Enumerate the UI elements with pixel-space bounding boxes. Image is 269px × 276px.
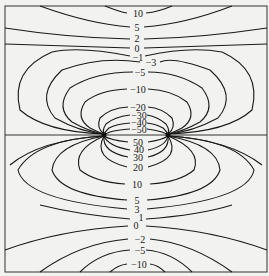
- label: 10: [132, 179, 142, 190]
- label: −1: [133, 52, 144, 63]
- label: −2: [135, 234, 146, 245]
- label: 20: [133, 162, 143, 173]
- label: −5: [135, 67, 146, 78]
- label: −10: [130, 84, 146, 95]
- left-pole: [102, 133, 107, 138]
- label: 1: [139, 212, 144, 223]
- label: −3: [146, 57, 157, 68]
- label: −50: [131, 124, 147, 135]
- right-pole: [166, 133, 171, 138]
- label: 0: [134, 220, 139, 231]
- label: 10: [133, 8, 143, 19]
- label: −10: [131, 259, 147, 270]
- contour-diagram: 10 5 2 0 −1 −3 −5 −10 −20 −30 −40 −50 50…: [0, 0, 269, 276]
- label: −5: [135, 245, 146, 256]
- label: 5: [135, 22, 140, 33]
